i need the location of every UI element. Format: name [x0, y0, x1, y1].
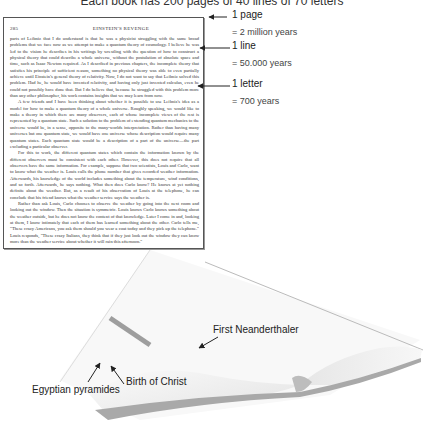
value-line: = 50.000 years	[232, 58, 292, 68]
arrow-neanderthal	[199, 337, 218, 348]
arrow-christ	[111, 366, 124, 384]
label-page: 1 page	[232, 9, 263, 20]
label-line: 1 line	[232, 40, 256, 51]
annotation-arrows	[0, 0, 424, 434]
value-page: = 2 million years	[232, 27, 297, 37]
label-letter: 1 letter	[232, 78, 263, 89]
value-letter: = 700 years	[232, 96, 279, 106]
label-neanderthal: First Neanderthaler	[213, 324, 299, 335]
label-christ: Birth of Christ	[126, 376, 187, 387]
label-pyramids: Egyptian pyramides	[32, 384, 120, 395]
arrow-pyramids	[88, 363, 100, 382]
